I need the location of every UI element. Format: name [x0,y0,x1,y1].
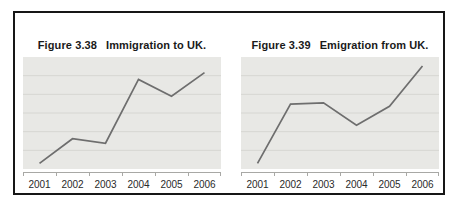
figure-caption: Emigration from UK. [320,39,429,51]
axis-tick [23,172,24,176]
year-label: 2006 [188,179,221,190]
x-axis [241,172,439,177]
figure-number: Figure 3.39 [251,39,310,51]
axis-tick [56,172,57,176]
figure-number: Figure 3.38 [38,39,97,51]
year-label: 2003 [89,179,122,190]
data-line [40,73,205,164]
axis-tick [373,172,374,176]
plot-area [23,57,221,169]
chart-panel-emigration: Figure 3.39 Emigration from UK. 20012002… [241,13,439,193]
year-label: 2005 [155,179,188,190]
x-axis-labels: 200120022003200420052006 [23,179,221,190]
axis-tick [307,172,308,176]
axis-tick [241,172,242,176]
x-axis [23,172,221,177]
axis-tick [406,172,407,176]
x-axis-labels: 200120022003200420052006 [241,179,439,190]
axis-tick [122,172,123,176]
figure-title: Figure 3.39 Emigration from UK. [241,13,439,51]
year-label: 2001 [23,179,56,190]
line-chart-svg [23,57,221,169]
year-label: 2001 [241,179,274,190]
figure-image: Figure 3.38 Immigration to UK. 200120022… [0,0,460,213]
year-label: 2006 [406,179,439,190]
data-line [258,66,423,163]
year-label: 2002 [274,179,307,190]
plot-area [241,57,439,169]
axis-tick [438,172,439,176]
year-label: 2003 [307,179,340,190]
year-label: 2005 [373,179,406,190]
year-label: 2002 [56,179,89,190]
axis-tick [274,172,275,176]
figure-caption: Immigration to UK. [106,39,206,51]
year-label: 2004 [340,179,373,190]
figure-title: Figure 3.38 Immigration to UK. [23,13,221,51]
axis-tick [340,172,341,176]
axis-tick [220,172,221,176]
chart-panel-immigration: Figure 3.38 Immigration to UK. 200120022… [23,13,221,193]
axis-tick [188,172,189,176]
axis-tick [155,172,156,176]
figure-frame: Figure 3.38 Immigration to UK. 200120022… [13,11,445,195]
axis-tick [89,172,90,176]
line-chart-svg [241,57,439,169]
year-label: 2004 [122,179,155,190]
